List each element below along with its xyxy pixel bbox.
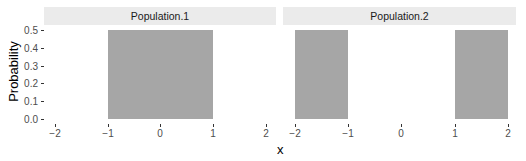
x-tick-mark xyxy=(213,124,214,127)
x-tick-mark xyxy=(266,124,267,127)
x-tick-label: −2 xyxy=(45,129,65,139)
y-tick-label: 0.5 xyxy=(12,26,38,36)
x-axis-label: x xyxy=(277,142,284,157)
x-tick-mark xyxy=(160,124,161,127)
x-tick-label: −1 xyxy=(338,129,358,139)
x-tick-label: 0 xyxy=(150,129,170,139)
bar xyxy=(295,30,348,119)
x-tick-mark xyxy=(55,124,56,127)
bar xyxy=(108,30,213,119)
x-tick-label: 0 xyxy=(391,129,411,139)
x-tick-mark xyxy=(295,124,296,127)
x-tick-label: 2 xyxy=(498,129,518,139)
bar xyxy=(455,30,508,119)
x-tick-label: 2 xyxy=(256,129,276,139)
x-tick-label: −2 xyxy=(285,129,305,139)
x-tick-label: 1 xyxy=(445,129,465,139)
y-tick-label: 0.1 xyxy=(12,97,38,107)
y-tick-label: 0.2 xyxy=(12,79,38,89)
y-tick-label: 0.4 xyxy=(12,44,38,54)
x-tick-mark xyxy=(348,124,349,127)
plot-panel xyxy=(283,25,516,124)
x-tick-mark xyxy=(508,124,509,127)
y-tick-label: 0.0 xyxy=(12,115,38,125)
plot-panel xyxy=(44,25,276,124)
y-tick-label: 0.3 xyxy=(12,62,38,72)
facet-strip: Population.1 xyxy=(44,7,276,25)
x-tick-label: −1 xyxy=(98,129,118,139)
x-tick-mark xyxy=(401,124,402,127)
x-tick-mark xyxy=(455,124,456,127)
x-tick-label: 1 xyxy=(203,129,223,139)
x-tick-mark xyxy=(108,124,109,127)
facet-strip: Population.2 xyxy=(283,7,516,25)
